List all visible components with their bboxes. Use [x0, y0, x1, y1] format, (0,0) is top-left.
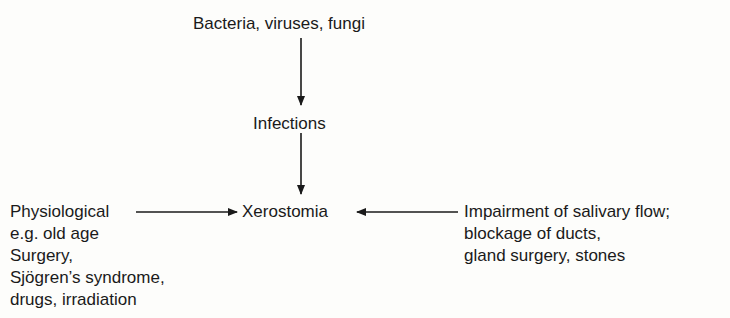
- left-line-5: drugs, irradiation: [10, 289, 165, 311]
- left-line-2: e.g. old age: [10, 223, 165, 245]
- node-infections: Infections: [253, 113, 326, 135]
- right-line-1: Impairment of salivary flow;: [464, 201, 670, 223]
- left-line-1: Physiological: [10, 201, 165, 223]
- node-bacteria-viruses-fungi: Bacteria, viruses, fungi: [193, 13, 365, 35]
- left-line-3: Surgery,: [10, 245, 165, 267]
- node-xerostomia: Xerostomia: [242, 201, 328, 223]
- node-physiological-causes: Physiological e.g. old age Surgery, Sjög…: [10, 201, 165, 311]
- right-line-2: blockage of ducts,: [464, 223, 670, 245]
- right-line-3: gland surgery, stones: [464, 245, 670, 267]
- left-line-4: Sjögren’s syndrome,: [10, 267, 165, 289]
- node-salivary-impairment: Impairment of salivary flow; blockage of…: [464, 201, 670, 267]
